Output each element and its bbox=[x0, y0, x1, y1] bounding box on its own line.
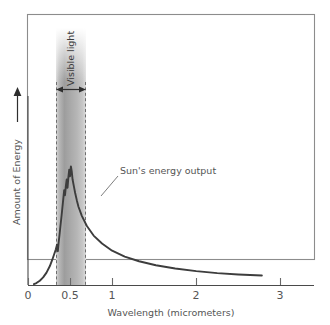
y-axis-title: Amount of Energy bbox=[11, 139, 22, 225]
x-tick-label-2: 1 bbox=[109, 289, 116, 302]
sun-energy-output-chart: Visible light Amount of Energy 0 0.5 1 2… bbox=[0, 0, 330, 325]
curve-annotation-label: Sun's energy output bbox=[120, 165, 216, 176]
x-axis-title: Wavelength (micrometers) bbox=[108, 307, 235, 318]
x-tick-label-3: 2 bbox=[193, 289, 200, 302]
visible-light-band-fill bbox=[56, 80, 86, 285]
x-axis-tick-labels: 0 0.5 1 2 3 bbox=[25, 289, 284, 302]
callout-leader-line bbox=[101, 176, 118, 196]
x-tick-label-4: 3 bbox=[277, 289, 284, 302]
y-axis-arrow-head-icon bbox=[14, 87, 22, 96]
figure-container: Visible light Amount of Energy 0 0.5 1 2… bbox=[0, 0, 330, 325]
x-tick-label-1: 0.5 bbox=[61, 289, 79, 302]
visible-light-label: Visible light bbox=[65, 31, 76, 86]
x-tick-label-0: 0 bbox=[25, 289, 32, 302]
